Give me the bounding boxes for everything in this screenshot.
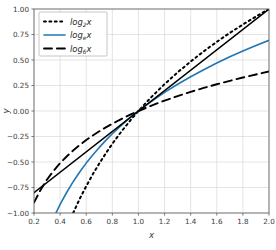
legend-label: log2x <box>70 17 93 28</box>
x-tick-label: 1.2 <box>159 217 170 226</box>
x-tick-label: 1.8 <box>237 217 249 226</box>
y-tick-label: −0.25 <box>7 132 29 141</box>
y-tick-label: 0.50 <box>13 56 29 65</box>
y-tick-label: −0.75 <box>7 183 29 192</box>
legend-label: logex <box>70 30 92 41</box>
y-axis-label: y <box>1 108 11 115</box>
x-tick-label: 1.4 <box>185 217 197 226</box>
legend-label: log6x <box>70 44 93 55</box>
x-tick-label: 1.0 <box>133 217 145 226</box>
y-tick-label: 0.75 <box>13 30 29 39</box>
chart-canvas: 0.20.40.60.81.01.21.41.61.82.0 −1.00−0.7… <box>0 0 276 250</box>
y-tick-label: 0.00 <box>13 107 29 116</box>
x-tick-label: 0.8 <box>107 217 119 226</box>
y-tick-label: 1.00 <box>13 5 29 14</box>
figure: 0.20.40.60.81.01.21.41.61.82.0 −1.00−0.7… <box>0 0 276 250</box>
y-tick-label: −0.50 <box>7 158 29 167</box>
x-tick-label: 2.0 <box>263 217 275 226</box>
legend: log2xlogexlog6x <box>39 12 107 56</box>
x-tick-label: 0.4 <box>54 217 66 226</box>
x-tick-label: 0.2 <box>28 217 39 226</box>
x-tick-label: 1.6 <box>211 217 223 226</box>
y-tick-label: −1.00 <box>7 209 29 218</box>
x-tick-label: 0.6 <box>81 217 93 226</box>
x-axis-label: x <box>148 230 155 240</box>
y-tick-label: 0.25 <box>13 81 29 90</box>
